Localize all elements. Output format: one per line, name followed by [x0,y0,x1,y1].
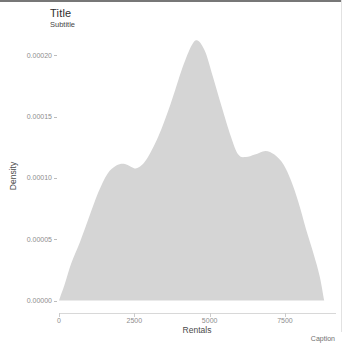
x-axis-title: Rentals [183,325,212,335]
x-tick-label: 5000 [202,317,218,324]
density-area-shape [59,40,324,300]
x-axis-line [59,313,336,314]
x-tick-label: 7500 [277,317,293,324]
x-tick-label: 2500 [127,317,143,324]
chart-figure: Title Subtitle Density 0.000200.000150.0… [0,0,342,347]
density-area-plot [0,0,342,347]
chart-caption: Caption [311,335,335,342]
x-tick-label: 0 [57,317,61,324]
